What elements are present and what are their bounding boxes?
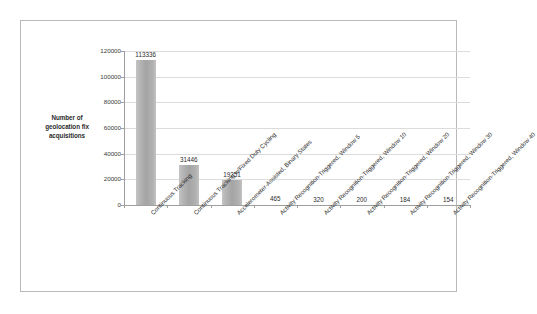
x-axis-tick xyxy=(297,205,298,208)
y-axis-tick-label: 40000 xyxy=(73,150,121,157)
gridline xyxy=(124,179,470,180)
x-axis-tick xyxy=(124,205,125,208)
y-axis-tick-label: 0 xyxy=(73,201,121,208)
bar xyxy=(136,60,156,205)
gridline xyxy=(124,102,470,103)
x-axis-tick xyxy=(211,205,212,208)
gridline xyxy=(124,51,470,52)
y-axis-tick-label: 120000 xyxy=(73,47,121,54)
y-axis-tick-label: 60000 xyxy=(73,124,121,131)
gridline xyxy=(124,128,470,129)
gridline xyxy=(124,77,470,78)
x-axis-tick xyxy=(384,205,385,208)
x-axis-tick xyxy=(167,205,168,208)
bar-value-label: 113336 xyxy=(121,51,171,58)
x-axis-tick xyxy=(470,205,471,208)
y-axis-tick-label: 20000 xyxy=(73,175,121,182)
x-axis-tick xyxy=(427,205,428,208)
y-axis-line xyxy=(124,51,125,205)
plot-area: 020000400006000080000100000120000 113336… xyxy=(124,51,470,205)
y-axis-tick-label: 80000 xyxy=(73,98,121,105)
y-axis-tick-label: 100000 xyxy=(73,73,121,80)
chart-frame: Number of geolocation fix acquisitions 0… xyxy=(20,20,457,292)
x-axis-tick xyxy=(340,205,341,208)
x-axis-tick xyxy=(254,205,255,208)
bar-value-label: 31446 xyxy=(164,156,214,163)
